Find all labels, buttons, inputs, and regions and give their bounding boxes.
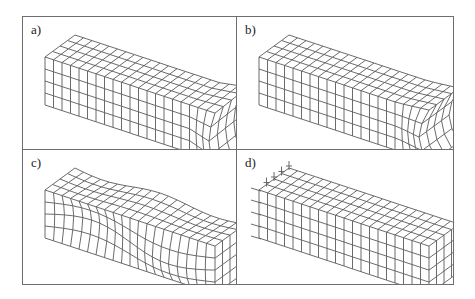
mesh-edge-front: [302, 204, 311, 207]
mesh-edge-front: [361, 103, 370, 106]
mesh-edge-front: [173, 232, 182, 235]
mesh-edge-top: [394, 94, 403, 97]
mesh-edge-front: [173, 135, 182, 138]
mesh-edge-top: [425, 213, 434, 216]
mesh-edge-front: [319, 113, 328, 116]
mesh-edge-top: [76, 177, 85, 181]
mesh-edge-end: [427, 132, 430, 146]
mesh-edge-top: [357, 57, 366, 60]
mesh-edge-top: [204, 80, 212, 86]
mesh-edge-top: [173, 94, 181, 100]
mesh-edge-front: [164, 108, 173, 111]
mesh-edge-front: [336, 215, 345, 218]
mesh-edge-top: [442, 84, 451, 86]
mesh-edge-top: [376, 80, 385, 83]
mesh-edge-top: [110, 189, 119, 191]
mesh-edge-top: [310, 68, 318, 74]
mesh-edge-top: [368, 204, 376, 210]
mesh-edge-top: [212, 219, 220, 224]
mesh-edge-front: [310, 219, 319, 222]
mesh-edge-top: [136, 63, 145, 66]
mesh-edge-front: [276, 63, 285, 66]
mesh-edge-top: [70, 186, 78, 191]
mesh-edge-top: [367, 202, 376, 205]
mesh-edge-top: [298, 171, 307, 174]
mesh-edge-top: [53, 46, 61, 52]
mesh-edge-top: [409, 83, 418, 86]
mesh-edge-front: [310, 207, 319, 210]
mesh-edge-top: [385, 216, 394, 219]
mesh-edge-end: [223, 259, 231, 265]
mesh-edge-front: [187, 238, 189, 255]
mesh-edge-top: [309, 60, 317, 66]
mesh-edge-front: [378, 265, 387, 268]
mesh-edge-front: [115, 232, 122, 237]
mesh-edge-top: [139, 82, 147, 88]
mesh-edge-top: [444, 230, 452, 236]
mesh-edge-front: [408, 132, 414, 135]
mesh-edge-top: [71, 60, 79, 66]
mesh-edge-top: [206, 231, 214, 236]
mesh-edge-top: [211, 80, 220, 83]
mesh-edge-front: [123, 237, 130, 242]
mesh-edge-front: [415, 108, 420, 121]
mesh-edge-top: [128, 195, 136, 201]
mesh-edge-front: [327, 212, 336, 215]
mesh-edge-top: [344, 213, 352, 219]
mesh-edge-front: [88, 119, 97, 122]
mesh-edge-top: [316, 185, 325, 188]
mesh-edge-front: [302, 240, 311, 243]
mesh-edge-front: [130, 266, 139, 269]
mesh-edge-top: [451, 86, 454, 88]
mesh-edge-top: [358, 193, 366, 199]
mesh-edge-front: [285, 198, 294, 201]
mesh-edge-top: [377, 83, 385, 89]
mesh-edge-top: [212, 88, 221, 90]
mesh-edge-top: [343, 71, 351, 77]
mesh-edge-front: [161, 247, 169, 250]
mesh-edge-top: [410, 224, 419, 227]
mesh-edge-top: [282, 35, 290, 41]
mesh-edge-front: [378, 229, 387, 232]
mesh-edge-top: [187, 214, 196, 218]
mesh-edge-top: [435, 219, 443, 225]
mesh-edge-top: [187, 80, 196, 83]
mesh-edge-front: [361, 260, 370, 263]
mesh-edge-front: [138, 235, 146, 239]
mesh-edge-top: [164, 91, 172, 97]
mesh-edge-top: [402, 83, 410, 89]
mesh-edge-top: [223, 98, 232, 100]
mesh-edge-top: [129, 203, 137, 209]
mesh-edge-top: [112, 204, 121, 207]
mesh-edge-front: [293, 68, 302, 71]
mesh-edge-top: [211, 216, 220, 219]
mesh-edge-front: [96, 86, 105, 89]
mesh-edge-front: [310, 98, 319, 101]
mesh-edge-top: [154, 71, 162, 77]
mesh-edge-top: [427, 90, 435, 96]
mesh-edge-top: [79, 63, 87, 68]
mesh-edge-top: [428, 232, 436, 238]
mesh-edge-front: [130, 121, 139, 124]
mesh-edge-front: [319, 258, 328, 261]
mesh-edge-front: [415, 121, 422, 123]
mesh-edge-top: [70, 52, 78, 58]
mesh-edge-top: [384, 69, 392, 75]
mesh-edge-front: [187, 278, 196, 280]
mesh-edge-front: [268, 108, 277, 111]
mesh-edge-top: [68, 174, 77, 178]
mesh-edge-top: [383, 199, 392, 202]
mesh-edge-top: [434, 82, 443, 84]
mesh-edge-top: [203, 77, 212, 80]
mesh-edge-front: [404, 104, 413, 106]
mesh-edge-top: [162, 206, 170, 212]
mesh-edge-top: [138, 80, 147, 83]
mesh-edge-top: [221, 221, 229, 226]
mesh-edge-end: [444, 129, 452, 135]
mesh-edge-front: [268, 72, 277, 75]
mesh-edge-top: [214, 233, 222, 238]
mesh-edge-front: [395, 259, 404, 262]
mesh-edge-top: [374, 196, 383, 199]
mesh-edge-top: [402, 88, 411, 91]
mesh-edge-front: [177, 267, 178, 277]
